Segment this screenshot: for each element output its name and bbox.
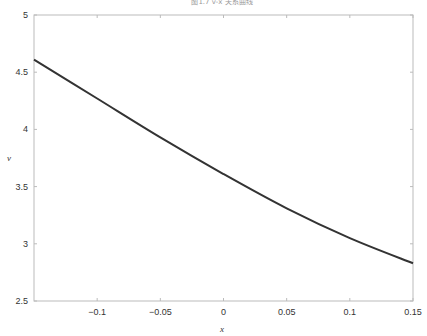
chart-title: 图1.7 v-x 关系曲线 <box>191 0 252 6</box>
x-axis-label: x <box>219 324 224 334</box>
x-tick-label: 0 <box>221 307 226 317</box>
x-tick-label: 0.05 <box>278 307 296 317</box>
x-tick-label: −0.05 <box>149 307 172 317</box>
x-axis-ticks: −0.1−0.0500.050.10.15 <box>88 15 421 317</box>
y-tick-label: 5 <box>23 10 28 20</box>
data-line <box>34 60 413 264</box>
y-tick-label: 4 <box>23 124 28 134</box>
plot-axes <box>34 15 413 301</box>
x-tick-label: −0.1 <box>88 307 106 317</box>
y-tick-label: 3 <box>23 239 28 249</box>
y-tick-label: 2.5 <box>15 296 28 306</box>
y-axis-label: v <box>7 153 11 163</box>
x-tick-label: 0.15 <box>404 307 422 317</box>
plot-frame <box>34 15 413 301</box>
y-tick-label: 4.5 <box>15 67 28 77</box>
x-tick-label: 0.1 <box>344 307 357 317</box>
y-axis-ticks: 2.533.544.55 <box>15 10 413 306</box>
y-tick-label: 3.5 <box>15 182 28 192</box>
line-chart: 图1.7 v-x 关系曲线 2.533.544.55 −0.1−0.0500.0… <box>0 0 427 336</box>
